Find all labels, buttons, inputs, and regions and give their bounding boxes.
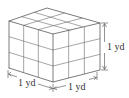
height-label: 1 yd bbox=[106, 42, 126, 52]
left-width-label: 1 yd bbox=[17, 78, 37, 88]
right-width-label: 1 yd bbox=[67, 82, 87, 92]
cube-diagram: 1 yd 1 yd 1 yd bbox=[0, 0, 129, 98]
